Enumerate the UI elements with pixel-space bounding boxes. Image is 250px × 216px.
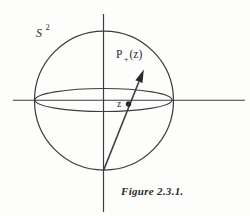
svg-text:2: 2 <box>46 22 50 32</box>
sphere-label: S 2 <box>36 22 50 40</box>
svg-text:(z): (z) <box>130 48 143 61</box>
point-z-label: z <box>117 99 121 109</box>
stereographic-projection-figure: S 2 P + (z) z Figure 2.3.1. <box>0 0 250 216</box>
projection-label: P + (z) <box>116 48 142 64</box>
svg-text:S: S <box>36 26 42 40</box>
diagram-svg: S 2 P + (z) z Figure 2.3.1. <box>0 0 250 216</box>
projection-ray <box>104 82 140 171</box>
svg-text:P: P <box>116 48 122 60</box>
figure-caption: Figure 2.3.1. <box>120 185 184 197</box>
svg-text:+: + <box>124 55 129 64</box>
point-z-marker <box>126 101 131 106</box>
projection-arrowhead <box>135 70 143 84</box>
